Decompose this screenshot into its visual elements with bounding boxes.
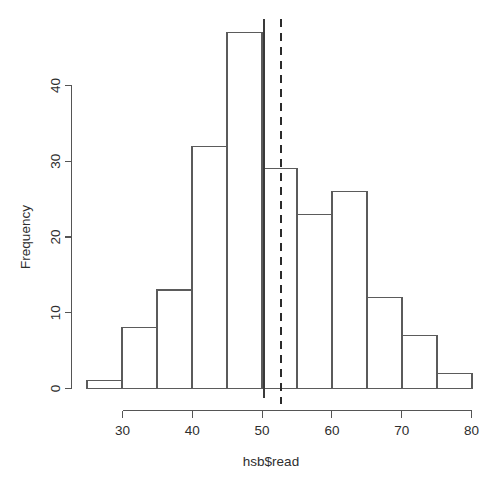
x-axis-title: hsb$read bbox=[243, 454, 299, 469]
histogram-bar bbox=[262, 169, 297, 389]
x-tick-label-70: 70 bbox=[394, 423, 409, 438]
x-tick-label-60: 60 bbox=[324, 423, 339, 438]
y-tick-label-0: 0 bbox=[48, 385, 63, 393]
y-tick-label-40: 40 bbox=[48, 78, 63, 93]
histogram-bar bbox=[332, 192, 367, 389]
histogram-plot: 0 10 20 30 40 Frequency bbox=[0, 0, 494, 477]
histogram-bar bbox=[192, 146, 227, 388]
x-axis: 30 40 50 60 70 80 hsb$read bbox=[115, 411, 479, 470]
histogram-bar bbox=[402, 336, 437, 389]
x-tick-label-30: 30 bbox=[115, 423, 130, 438]
x-tick-label-80: 80 bbox=[464, 423, 479, 438]
y-tick-label-10: 10 bbox=[48, 305, 63, 320]
histogram-bar bbox=[122, 328, 157, 389]
y-axis: 0 10 20 30 40 Frequency bbox=[18, 78, 72, 392]
y-tick-label-30: 30 bbox=[48, 154, 63, 169]
y-axis-title: Frequency bbox=[18, 205, 33, 269]
histogram-bar bbox=[227, 33, 262, 389]
chart-canvas: 0 10 20 30 40 Frequency bbox=[0, 0, 494, 477]
histogram-bar bbox=[87, 381, 122, 389]
x-tick-label-50: 50 bbox=[255, 423, 270, 438]
x-tick-label-40: 40 bbox=[185, 423, 200, 438]
histogram-bar bbox=[157, 290, 192, 389]
histogram-bar bbox=[437, 373, 472, 388]
histogram-bar bbox=[297, 214, 332, 388]
y-tick-label-20: 20 bbox=[48, 229, 63, 244]
reference-lines bbox=[264, 19, 282, 404]
histogram-bar bbox=[367, 298, 402, 389]
histogram-bars bbox=[87, 33, 472, 389]
